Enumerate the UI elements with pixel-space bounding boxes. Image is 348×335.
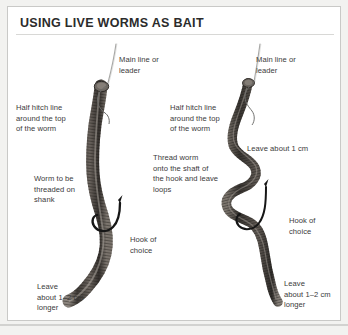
left-hook bbox=[93, 203, 120, 231]
right-hook bbox=[236, 187, 266, 229]
label-left-main-line: Main line or leader bbox=[119, 55, 179, 76]
left-main-line bbox=[108, 44, 117, 85]
left-worm-head bbox=[94, 81, 108, 91]
label-right-leave-longer: Leave about 1–2 cm longer bbox=[284, 279, 341, 311]
right-hook-barb bbox=[264, 179, 269, 187]
label-right-hook-of-choice: Hook of choice bbox=[289, 216, 337, 237]
figure-root: USING LIVE WORMS AS BAIT bbox=[0, 0, 348, 335]
label-right-thread-worm: Thread worm onto the shaft of the hook a… bbox=[153, 153, 239, 195]
figure-panel: USING LIVE WORMS AS BAIT bbox=[7, 6, 341, 321]
label-right-half-hitch: Half hitch line around the top of the wo… bbox=[170, 103, 250, 135]
label-left-hook-of-choice: Hook of choice bbox=[130, 235, 178, 256]
label-left-leave-longer: Leave about 1–2 cm longer bbox=[37, 282, 99, 314]
title-divider bbox=[16, 34, 334, 35]
label-right-main-line: Main line or leader bbox=[256, 55, 318, 76]
figure-bottom-rule bbox=[0, 324, 348, 326]
page-title: USING LIVE WORMS AS BAIT bbox=[20, 16, 204, 30]
right-worm-head bbox=[243, 79, 255, 88]
left-half-hitch-line bbox=[97, 85, 109, 124]
left-hook-barb bbox=[118, 195, 123, 203]
label-left-worm-threaded: Worm to be threaded on shank bbox=[34, 174, 100, 206]
label-right-leave-about: Leave about 1 cm bbox=[247, 144, 341, 155]
label-left-half-hitch: Half hitch line around the top of the wo… bbox=[16, 103, 94, 135]
left-worm-group bbox=[69, 44, 123, 301]
